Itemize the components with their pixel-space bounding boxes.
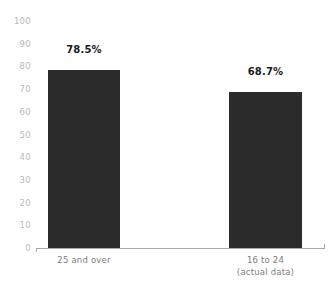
bar-25-and-over[interactable] [48,70,120,248]
bar-chart: 100 90 80 70 60 50 40 30 20 10 0 78.5% 2… [0,0,335,283]
bar-category-label-25-and-over: 25 and over [30,254,138,266]
bar-value-label-25-and-over: 78.5% [48,44,120,55]
plot-area: 78.5% 25 and over 68.7% 16 to 24 (actual… [0,0,335,283]
bar-category-label-16-to-24: 16 to 24 (actual data) [211,254,320,278]
bar-16-to-24[interactable] [229,92,302,248]
bar-value-label-16-to-24: 68.7% [229,66,302,77]
